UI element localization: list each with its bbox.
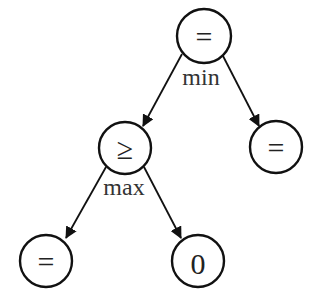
node-zero-label: 0	[191, 247, 206, 280]
node-greater-equal: ≥	[99, 122, 151, 174]
expression-tree-diagram: = ≥ = = 0 min max	[0, 0, 314, 301]
node-right-eq-label: =	[268, 131, 285, 164]
node-right-equals: =	[250, 121, 302, 173]
node-bl-eq-label: =	[38, 245, 55, 278]
node-zero: 0	[172, 235, 224, 287]
edge-root-to-ge	[143, 54, 182, 126]
edge-root-to-right-eq	[223, 56, 259, 126]
node-bottom-left-equals: =	[20, 235, 72, 287]
node-ge-label: ≥	[117, 132, 133, 165]
edge-ge-to-zero	[144, 167, 181, 238]
node-root-equals: =	[177, 9, 231, 63]
max-label: max	[103, 174, 144, 200]
edge-ge-to-bottom-left-eq	[66, 167, 106, 238]
min-label: min	[182, 64, 219, 90]
node-root-label: =	[196, 20, 213, 53]
